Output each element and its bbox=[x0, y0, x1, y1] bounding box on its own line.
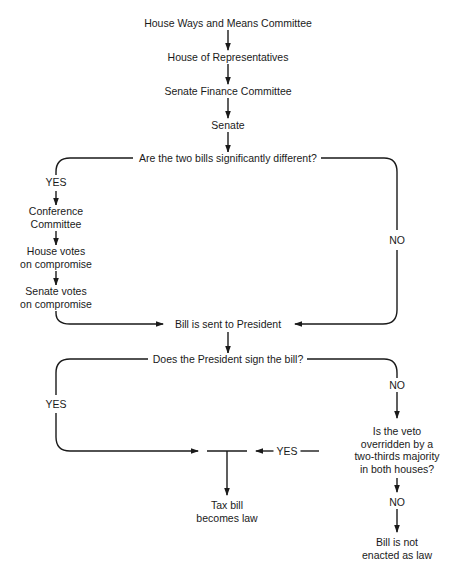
node-sent-to-president: Bill is sent to President bbox=[172, 318, 284, 331]
node-senate: Senate bbox=[208, 119, 247, 132]
edge-label-sign-no: NO bbox=[386, 379, 408, 392]
node-conference-committee: Conference Committee bbox=[26, 205, 86, 230]
node-tax-bill-becomes-law: Tax bill becomes law bbox=[193, 499, 260, 524]
question-veto-overridden: Is the veto overridden by a two-thirds m… bbox=[351, 425, 442, 475]
question-bills-different: Are the two bills significantly differen… bbox=[136, 152, 320, 165]
line-q1-no bbox=[321, 158, 397, 230]
line-q1-yes bbox=[56, 158, 133, 175]
line-q2-no bbox=[307, 359, 397, 378]
line-q2-yes bbox=[56, 359, 148, 395]
node-bill-not-enacted: Bill is not enacted as law bbox=[359, 536, 435, 561]
edge-label-different-no: NO bbox=[386, 234, 408, 247]
edge-label-sign-yes: YES bbox=[42, 398, 69, 411]
edge-label-override-yes: YES bbox=[273, 445, 300, 458]
node-house-of-representatives: House of Representatives bbox=[165, 51, 292, 64]
node-ways-means-committee: House Ways and Means Committee bbox=[141, 17, 315, 30]
edge-label-override-no: NO bbox=[386, 496, 408, 509]
edge-label-different-yes: YES bbox=[42, 176, 69, 189]
question-president-sign: Does the President sign the bill? bbox=[150, 353, 307, 366]
line-senatevotes-to-president bbox=[56, 311, 163, 324]
node-house-votes: House votes on compromise bbox=[17, 245, 95, 270]
node-senate-finance-committee: Senate Finance Committee bbox=[161, 85, 294, 98]
node-senate-votes: Senate votes on compromise bbox=[17, 285, 95, 310]
